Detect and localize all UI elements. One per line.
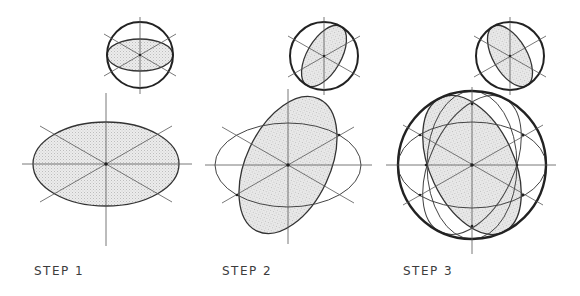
step-2-small-view xyxy=(288,17,360,95)
step-1-main-view xyxy=(22,93,192,246)
step-2-main-view xyxy=(205,81,372,249)
step-2-small-center-dot xyxy=(323,55,325,57)
step-3-point-bottom xyxy=(471,225,474,228)
step-1-center-dot xyxy=(104,162,108,166)
step-3-small-view xyxy=(474,17,546,95)
step-1-label: STEP 1 xyxy=(34,264,84,278)
step-2-tangent-point-a xyxy=(338,134,341,137)
step-2-center-dot xyxy=(286,163,290,167)
step-3-point-left xyxy=(425,164,428,167)
ellipse-construction-diagram xyxy=(0,0,580,296)
step-3-point-upper-right xyxy=(522,134,525,137)
step-3-main-view xyxy=(386,80,556,254)
step-2-tangent-point-b xyxy=(236,194,239,197)
step-3-label: STEP 3 xyxy=(403,264,453,278)
step-3-point-right xyxy=(516,164,519,167)
step-3-center-dot xyxy=(470,163,474,167)
step-3-point-top xyxy=(471,103,474,106)
step-1-small-center-dot xyxy=(139,54,141,56)
step-3-point-upper-left xyxy=(419,134,422,137)
step-3-point-lower-left xyxy=(419,194,422,197)
step-3-small-center-dot xyxy=(509,55,511,57)
step-3-point-lower-right xyxy=(522,194,525,197)
step-1-small-view xyxy=(104,17,176,94)
step-2-label: STEP 2 xyxy=(222,264,272,278)
